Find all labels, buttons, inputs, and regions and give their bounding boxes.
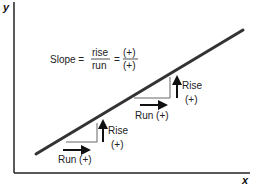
upper-rise-run-triangle [134,77,170,98]
lower-run-label: Run (+) [58,154,92,165]
x-axis-label: x [241,174,249,186]
slope-diagram: y x Rise (+) Run (+) Rise (+) Run (+) Sl… [0,0,256,186]
upper-rise-label: Rise [182,80,202,91]
y-axis-label: y [2,1,10,13]
formula-equals: = [114,54,120,65]
positive-slope-line [36,30,243,154]
formula-denominator-run: run [92,60,106,71]
upper-run-label: Run (+) [135,110,169,121]
upper-rise-sign: (+) [185,94,198,105]
formula-denominator-sign: (+) [123,60,136,71]
lower-rise-sign: (+) [111,139,124,150]
formula-numerator-rise: rise [92,47,109,58]
formula-numerator-sign: (+) [123,47,136,58]
lower-rise-label: Rise [108,125,128,136]
formula-prefix: Slope = [50,54,84,65]
